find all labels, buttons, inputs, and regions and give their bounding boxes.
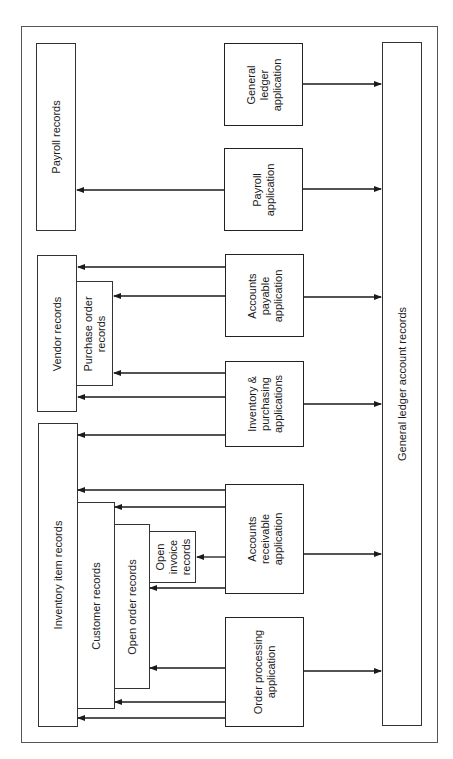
connection-arrows — [0, 0, 453, 759]
